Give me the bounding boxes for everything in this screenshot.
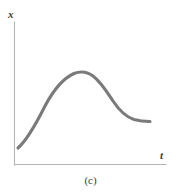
y-axis-label: x [8,9,14,20]
x-axis-label: t [160,150,163,161]
plot-area [0,0,181,194]
figure-caption: (c) [0,175,181,186]
figure-panel: x t (c) [0,0,181,194]
data-curve [18,72,150,148]
